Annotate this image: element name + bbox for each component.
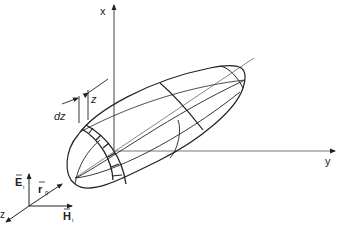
z-axis-label: z [0, 209, 5, 220]
e-field-label: E [15, 176, 22, 188]
ellipsoid-axis [75, 58, 254, 178]
x-axis-label: x [100, 5, 106, 17]
ellipsoid [67, 65, 245, 188]
ellipsoid-diagram: x y z dz [0, 0, 338, 228]
e-field-subscript: i [23, 184, 24, 190]
dimension-markers [62, 79, 108, 123]
dz-annotation-label: dz [54, 110, 66, 122]
y-axis-label: y [325, 155, 331, 167]
z-annotation-label: z [90, 93, 97, 105]
h-field-subscript: i [72, 217, 73, 223]
r0-label: r [38, 183, 43, 195]
h-field-label: H [63, 210, 71, 222]
